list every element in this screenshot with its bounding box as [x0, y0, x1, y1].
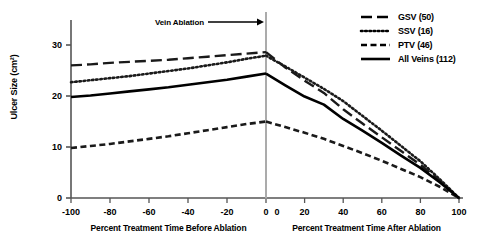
legend-label: All Veins (112) — [398, 54, 456, 64]
y-axis-title: Ulcer Size (cm²) — [9, 54, 19, 119]
x-tick-label-before: -60 — [142, 207, 155, 217]
y-tick-label: 0 — [57, 193, 62, 203]
x-tick-label-after: 60 — [377, 207, 387, 217]
series-all-veins — [71, 74, 459, 198]
x-tick-label-before: -100 — [62, 207, 80, 217]
legend-label: GSV (50) — [398, 12, 434, 22]
x-tick-label-after: 40 — [338, 207, 348, 217]
vein-ablation-arrow-head — [257, 18, 264, 25]
chart-canvas: 0102030-100-80-60-40-200204060801000Vein… — [0, 0, 490, 247]
chart-figure: 0102030-100-80-60-40-200204060801000Vein… — [0, 0, 490, 247]
x-tick-label-after: 100 — [451, 207, 466, 217]
x-axis-title-after: Percent Treatment Time After Ablation — [292, 223, 441, 233]
x-tick-label-after: 80 — [415, 207, 425, 217]
x-tick-label-after-zero: 0 — [274, 207, 279, 217]
y-axis-title-wrapper: Ulcer Size (cm²) — [3, 42, 21, 132]
x-tick-label-before: -20 — [220, 207, 233, 217]
y-tick-label: 30 — [52, 40, 62, 50]
series-ptv — [71, 122, 459, 199]
series-ssv — [71, 56, 459, 198]
legend: GSV (50)SSV (16)PTV (46)All Veins (112) — [361, 12, 456, 64]
legend-label: PTV (46) — [398, 40, 433, 50]
x-tick-label-after: 20 — [300, 207, 310, 217]
legend-label: SSV (16) — [398, 26, 433, 36]
series-line-after — [266, 74, 459, 198]
x-tick-label-before: -80 — [103, 207, 116, 217]
series-line-before — [71, 74, 266, 97]
x-tick-label-before: -40 — [181, 207, 194, 217]
vein-ablation-label: Vein Ablation — [155, 18, 204, 27]
x-axis-title-before: Percent Treatment Time Before Ablation — [91, 223, 247, 233]
x-tick-label-before: 0 — [263, 207, 268, 217]
series-line-after — [266, 122, 459, 199]
y-tick-label: 20 — [52, 91, 62, 101]
series-line-before — [71, 122, 266, 149]
series-line-before — [71, 52, 266, 65]
y-tick-label: 10 — [52, 142, 62, 152]
